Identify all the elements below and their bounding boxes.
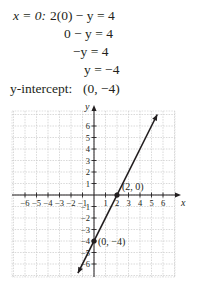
- x-tick-label: −4: [43, 198, 53, 208]
- y-tick-label: 1: [86, 179, 90, 189]
- y-tick-label: 6: [86, 121, 90, 131]
- x-axis-label: x: [180, 197, 186, 208]
- x-tick-label: −5: [32, 198, 41, 208]
- y-tick-label: −2: [81, 213, 90, 223]
- y-tick-label: 3: [86, 156, 90, 166]
- coordinate-graph: −6−5−4−3−2−1123456−6−5−4−3−2−1123456xy(2…: [0, 0, 198, 291]
- point-label: (2, 0): [122, 181, 144, 193]
- y-axis-arrow-icon: [92, 105, 97, 111]
- x-tick-label: 1: [103, 198, 107, 208]
- point-label: (0, −4): [98, 236, 125, 248]
- x-tick-label: 3: [126, 198, 130, 208]
- axes: −6−5−4−3−2−1123456−6−5−4−3−2−1123456xy: [12, 101, 186, 277]
- intercept-point: [91, 238, 96, 243]
- y-axis-label: y: [84, 101, 90, 112]
- intercept-point: [114, 192, 119, 197]
- x-tick-label: 5: [149, 198, 153, 208]
- y-tick-label: −1: [81, 202, 90, 212]
- x-tick-label: −3: [55, 198, 64, 208]
- y-tick-label: 4: [86, 144, 91, 154]
- y-tick-label: 5: [86, 133, 90, 143]
- y-tick-label: −3: [81, 225, 90, 235]
- y-tick-label: 2: [86, 167, 90, 177]
- x-tick-label: 6: [161, 198, 165, 208]
- y-tick-label: −4: [81, 236, 91, 246]
- x-tick-label: −2: [66, 198, 75, 208]
- x-tick-label: −6: [20, 198, 29, 208]
